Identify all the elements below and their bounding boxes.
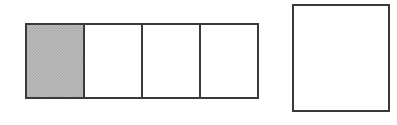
bar-cell-4-label xyxy=(201,25,202,26)
whole-unit-box-label xyxy=(294,6,295,7)
bar-cell-2[interactable] xyxy=(85,25,143,97)
bar-cell-1-label xyxy=(27,25,28,26)
bar-cell-3-label xyxy=(143,25,144,26)
figure-canvas xyxy=(0,0,397,125)
bar-cell-3[interactable] xyxy=(143,25,201,97)
bar-cell-1-shaded[interactable] xyxy=(27,25,85,97)
whole-unit-box[interactable] xyxy=(292,4,390,112)
partitioned-bar xyxy=(25,23,259,99)
bar-cell-2-label xyxy=(85,25,86,26)
bar-cell-4[interactable] xyxy=(201,25,257,97)
